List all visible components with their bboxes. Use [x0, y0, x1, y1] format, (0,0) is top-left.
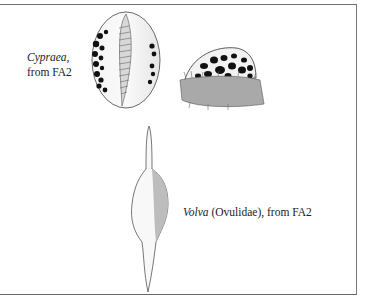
cypraea-animal-illustration — [178, 44, 266, 114]
cypraea-genus-name: Cypraea — [27, 51, 67, 63]
volva-genus-name: Volva — [183, 206, 209, 218]
cypraea-ventral-illustration — [86, 8, 166, 112]
volva-caption-source: (Ovulidae), from FA2 — [209, 206, 312, 218]
volva-caption: Volva (Ovulidae), from FA2 — [183, 205, 312, 220]
volva-illustration — [128, 124, 178, 294]
cypraea-caption: Cypraea, from FA2 — [27, 50, 89, 80]
